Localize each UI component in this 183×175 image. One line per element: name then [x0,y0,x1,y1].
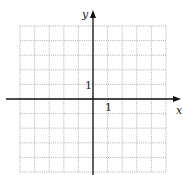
x-tick-label: 1 [105,101,112,114]
x-axis-label: x [176,104,183,117]
x-axis-arrow-icon [173,96,181,102]
y-axis-label: y [81,8,89,21]
y-tick-label: 1 [85,79,92,92]
coordinate-plane: x y 1 1 [0,0,183,175]
y-axis-arrow-icon [90,10,96,18]
